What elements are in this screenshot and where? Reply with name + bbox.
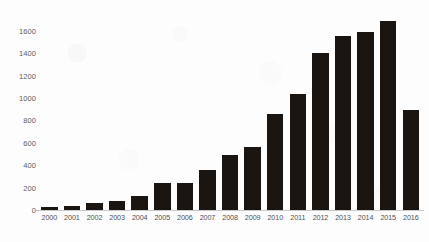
bar-slot [309, 14, 332, 210]
x-tick-label: 2002 [83, 213, 106, 222]
y-tick-label: 200 [2, 183, 36, 192]
bar [244, 147, 260, 210]
x-tick-label: 2008 [219, 213, 242, 222]
y-tick-label: 600 [2, 138, 36, 147]
y-tick-label: 1000 [2, 94, 36, 103]
y-tick-label: 400 [2, 161, 36, 170]
bar-slot [196, 14, 219, 210]
x-axis-line [36, 210, 424, 211]
bar-slot [106, 14, 129, 210]
bar [86, 203, 102, 210]
bar [154, 183, 170, 210]
x-tick-label: 2012 [309, 213, 332, 222]
bar [312, 53, 328, 210]
y-tick-label: 1600 [2, 26, 36, 35]
bar-slot [83, 14, 106, 210]
x-tick-label: 2009 [241, 213, 264, 222]
y-tick-label: 1400 [2, 49, 36, 58]
x-tick-label: 2013 [332, 213, 355, 222]
bar-series [38, 14, 422, 210]
y-tick-label: 0 [2, 206, 36, 215]
x-tick-label: 2004 [128, 213, 151, 222]
bar [177, 183, 193, 210]
x-tick-label: 2015 [377, 213, 400, 222]
bar [109, 201, 125, 210]
bar [199, 170, 215, 210]
bar-slot [128, 14, 151, 210]
y-tick-label: 1200 [2, 71, 36, 80]
bar-slot [332, 14, 355, 210]
bar-slot [241, 14, 264, 210]
x-tick-label: 2006 [174, 213, 197, 222]
x-tick-label: 2000 [38, 213, 61, 222]
bar [357, 32, 373, 210]
x-axis: 2000200120022003200420052006200720082009… [38, 213, 422, 222]
x-tick-label: 2001 [61, 213, 84, 222]
x-tick-label: 2003 [106, 213, 129, 222]
bar-slot [219, 14, 242, 210]
bar-slot [264, 14, 287, 210]
bar-slot [400, 14, 423, 210]
y-tick-label: 800 [2, 116, 36, 125]
bar-slot [174, 14, 197, 210]
bar-slot [354, 14, 377, 210]
x-tick-label: 2011 [287, 213, 310, 222]
x-tick-label: 2010 [264, 213, 287, 222]
plot-area [38, 14, 422, 210]
y-axis: 02004006008001000120014001600 [0, 0, 36, 242]
bar-slot [151, 14, 174, 210]
bar-chart: 02004006008001000120014001600 2000200120… [0, 0, 429, 242]
bar-slot [38, 14, 61, 210]
bar [335, 36, 351, 210]
x-tick-label: 2016 [400, 213, 423, 222]
chart-screenshot: 02004006008001000120014001600 2000200120… [0, 0, 429, 242]
bar-slot [377, 14, 400, 210]
bar [380, 21, 396, 210]
bar [290, 94, 306, 210]
x-tick-label: 2007 [196, 213, 219, 222]
bar [131, 196, 147, 210]
x-tick-label: 2014 [354, 213, 377, 222]
bar-slot [61, 14, 84, 210]
bar [222, 155, 238, 210]
bar [267, 114, 283, 210]
bar [403, 110, 419, 210]
bar-slot [287, 14, 310, 210]
x-tick-label: 2005 [151, 213, 174, 222]
